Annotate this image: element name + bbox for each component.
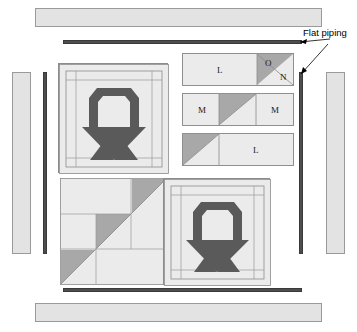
quilt-assembly-diagram: L O N M M L Flat piping: [0, 0, 357, 332]
flat-piping-label: Flat piping: [303, 28, 347, 39]
flat-piping-leader-lines: [0, 0, 357, 332]
